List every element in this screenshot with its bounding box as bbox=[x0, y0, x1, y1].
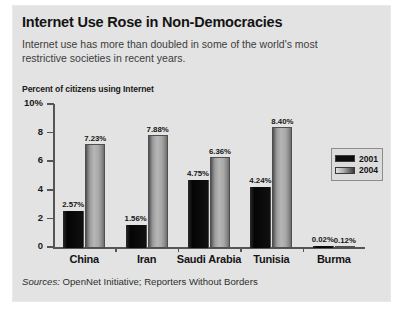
bar-value-label: 6.36% bbox=[209, 147, 231, 156]
y-axis-title: Percent of citizens using Internet bbox=[22, 84, 154, 94]
bar-burma-2004: 0.12% bbox=[335, 246, 355, 248]
x-tick bbox=[303, 247, 305, 252]
category-label-china: China bbox=[69, 253, 99, 265]
page-title: Internet Use Rose in Non-Democracies bbox=[22, 14, 372, 30]
bar-saudi-arabia-2004: 6.36% bbox=[210, 157, 230, 248]
x-tick bbox=[178, 247, 180, 252]
legend-label-2004: 2004 bbox=[359, 165, 378, 175]
bar-value-label: 7.88% bbox=[147, 125, 169, 134]
bar-value-label: 0.12% bbox=[334, 236, 356, 245]
bar-tunisia-2004: 8.40% bbox=[272, 127, 292, 247]
bar-value-label: 1.56% bbox=[125, 214, 147, 223]
bar-value-label: 2.57% bbox=[62, 200, 84, 209]
plot-area: 0246810% 2.57%7.23%1.56%7.88%4.75%6.36%4… bbox=[22, 96, 378, 261]
category-label-saudi-arabia: Saudi Arabia bbox=[177, 253, 241, 265]
legend-item-2001: 2001 bbox=[335, 154, 379, 164]
bar-burma-2001: 0.02% bbox=[313, 246, 334, 247]
x-tick bbox=[240, 247, 242, 252]
category-label-iran: Iran bbox=[137, 253, 156, 265]
legend-item-2004: 2004 bbox=[335, 165, 379, 175]
y-tick: 6 bbox=[47, 160, 54, 162]
y-tick-label: 8 bbox=[38, 126, 43, 137]
bar-value-label: 8.40% bbox=[271, 117, 293, 126]
y-tick-label: 2 bbox=[38, 212, 43, 223]
sources-word: Sources: bbox=[22, 276, 60, 287]
bar-value-label: 7.23% bbox=[84, 134, 106, 143]
sources-text: OpenNet Initiative; Reporters Without Bo… bbox=[60, 276, 258, 287]
legend-swatch-2001 bbox=[335, 155, 355, 162]
chart-figure: Internet Use Rose in Non-Democracies Int… bbox=[0, 0, 404, 323]
y-tick-label: 10% bbox=[24, 97, 43, 108]
x-tick bbox=[115, 247, 117, 252]
y-tick: 0 bbox=[47, 246, 54, 248]
bar-china-2004: 7.23% bbox=[85, 144, 105, 247]
y-tick: 4 bbox=[47, 189, 54, 191]
bar-value-label: 0.02% bbox=[312, 235, 334, 244]
y-tick: 10% bbox=[47, 103, 54, 105]
category-label-burma: Burma bbox=[317, 253, 351, 265]
y-tick-label: 4 bbox=[38, 183, 43, 194]
chart-subtitle: Internet use has more than doubled in so… bbox=[22, 38, 342, 65]
legend-label-2001: 2001 bbox=[359, 154, 378, 164]
y-axis-line bbox=[53, 104, 55, 248]
bar-tunisia-2001: 4.24% bbox=[250, 187, 271, 248]
y-tick-label: 0 bbox=[38, 240, 43, 251]
y-tick-label: 6 bbox=[38, 154, 43, 165]
bar-iran-2001: 1.56% bbox=[126, 225, 147, 247]
bar-value-label: 4.75% bbox=[187, 169, 209, 178]
category-label-tunisia: Tunisia bbox=[253, 253, 289, 265]
legend-swatch-2004 bbox=[335, 167, 355, 174]
y-tick: 8 bbox=[47, 132, 54, 134]
bar-china-2001: 2.57% bbox=[63, 211, 84, 248]
bar-iran-2004: 7.88% bbox=[148, 135, 168, 248]
y-tick: 2 bbox=[47, 218, 54, 220]
bar-value-label: 4.24% bbox=[249, 176, 271, 185]
bar-saudi-arabia-2001: 4.75% bbox=[188, 180, 209, 248]
sources-line: Sources: OpenNet Initiative; Reporters W… bbox=[22, 276, 258, 287]
chart-legend: 20012004 bbox=[331, 148, 383, 181]
